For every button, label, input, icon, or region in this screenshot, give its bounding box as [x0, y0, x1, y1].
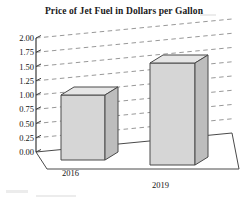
y-tick-label: 1.75 — [4, 48, 34, 56]
y-tick-label: 2.00 — [4, 34, 34, 42]
bar-2016[interactable] — [61, 87, 118, 160]
y-tick-label: 0.25 — [4, 134, 34, 142]
y-axis — [36, 36, 41, 153]
category-label-2016: 2016 — [62, 168, 79, 178]
y-tick-label: 1.00 — [4, 91, 34, 99]
y-tick-label: 0.50 — [4, 120, 34, 128]
scan-artifact — [6, 190, 28, 193]
category-label-2019: 2019 — [152, 180, 169, 190]
y-tick-label: 1.25 — [4, 77, 34, 85]
chart-container: Price of Jet Fuel in Dollars per Gallon — [0, 0, 248, 201]
scan-artifact — [200, 14, 216, 16]
scan-artifact — [36, 195, 76, 197]
y-tick-label: 0.75 — [4, 105, 34, 113]
bar-2019[interactable] — [150, 55, 208, 165]
chart-plot-area — [0, 0, 248, 201]
y-tick-label: 0.00 — [4, 148, 34, 156]
y-axis-tick-labels: 2.00 1.75 1.50 1.25 1.00 0.75 0.50 0.25 … — [4, 0, 34, 201]
y-tick-label: 1.50 — [4, 63, 34, 71]
